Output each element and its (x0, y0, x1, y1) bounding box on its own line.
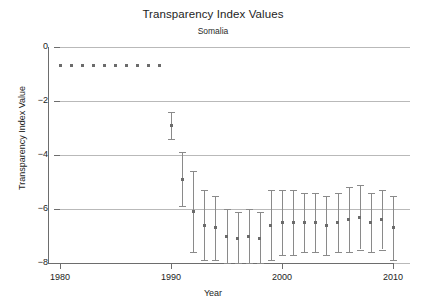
data-point (258, 237, 261, 240)
gridline (60, 47, 410, 48)
data-point (92, 64, 95, 67)
data-point (292, 221, 295, 224)
error-bar-cap (379, 190, 386, 191)
x-tick (282, 263, 283, 269)
y-tick (54, 209, 60, 210)
gridline (60, 155, 410, 156)
y-tick (54, 47, 60, 48)
data-point (336, 221, 339, 224)
x-tick-label: 2000 (262, 272, 302, 282)
error-bar-cap (279, 190, 286, 191)
error-bar-cap (279, 255, 286, 256)
error-bar-cap (224, 263, 231, 264)
error-bar-cap (323, 196, 330, 197)
data-point (125, 64, 128, 67)
error-bar-cap (168, 139, 175, 140)
chart-figure: Transparency Index Values Somalia 0−2−4−… (0, 0, 426, 306)
error-bar-cap (257, 263, 264, 264)
error-bar-cap (179, 152, 186, 153)
data-point (358, 216, 361, 219)
data-point (236, 237, 239, 240)
data-point (214, 226, 217, 229)
data-point (158, 64, 161, 67)
error-bar-cap (301, 193, 308, 194)
data-point (181, 178, 184, 181)
error-bar-cap (246, 263, 253, 264)
chart-subtitle: Somalia (0, 26, 426, 36)
data-point (192, 210, 195, 213)
data-point (147, 64, 150, 67)
data-point (70, 64, 73, 67)
error-bar-cap (235, 263, 242, 264)
error-bar-cap (312, 252, 319, 253)
y-tick-label: −8 (20, 257, 48, 267)
data-point (81, 64, 84, 67)
data-point (203, 224, 206, 227)
chart-title: Transparency Index Values (0, 8, 426, 20)
data-point (380, 218, 383, 221)
gridline (60, 209, 410, 210)
data-point (136, 64, 139, 67)
data-point (59, 64, 62, 67)
error-bar-cap (346, 252, 353, 253)
x-tick-label: 1980 (40, 272, 80, 282)
data-point (103, 64, 106, 67)
data-point (314, 221, 317, 224)
x-tick (171, 263, 172, 269)
data-point (225, 235, 228, 238)
x-tick-label: 1990 (151, 272, 191, 282)
error-bar-cap (290, 190, 297, 191)
error-bar-cap (368, 193, 375, 194)
error-bar-cap (190, 171, 197, 172)
error-bar-cap (357, 250, 364, 251)
data-point (114, 64, 117, 67)
data-point (170, 124, 173, 127)
y-tick (54, 155, 60, 156)
x-axis-title: Year (0, 288, 426, 298)
y-tick (54, 101, 60, 102)
y-axis-line (48, 47, 49, 264)
error-bar-cap (390, 196, 397, 197)
x-tick-label: 2010 (373, 272, 413, 282)
data-point (269, 224, 272, 227)
data-point (369, 221, 372, 224)
x-tick (393, 263, 394, 269)
error-bar-cap (323, 255, 330, 256)
error-bar-cap (268, 190, 275, 191)
error-bar-cap (290, 255, 297, 256)
error-bar-cap (212, 260, 219, 261)
data-point (247, 235, 250, 238)
gridline (60, 101, 410, 102)
x-axis-line (48, 263, 393, 264)
error-bar-cap (168, 112, 175, 113)
error-bar-cap (268, 260, 275, 261)
error-bar-cap (335, 252, 342, 253)
error-bar-cap (368, 252, 375, 253)
x-tick (60, 263, 61, 269)
error-bar-cap (246, 209, 253, 210)
error-bar-cap (201, 190, 208, 191)
error-bar-cap (257, 212, 264, 213)
error-bar-cap (179, 206, 186, 207)
error-bar-cap (312, 193, 319, 194)
error-bar-cap (357, 185, 364, 186)
error-bar-cap (390, 260, 397, 261)
error-bar-cap (224, 209, 231, 210)
error-bar-cap (235, 212, 242, 213)
data-point (303, 221, 306, 224)
error-bar-cap (379, 250, 386, 251)
data-point (347, 218, 350, 221)
error-bar-cap (212, 196, 219, 197)
error-bar-cap (301, 252, 308, 253)
data-point (325, 224, 328, 227)
error-bar-cap (335, 193, 342, 194)
data-point (281, 221, 284, 224)
error-bar-cap (201, 260, 208, 261)
error-bar-cap (346, 187, 353, 188)
error-bar-cap (190, 252, 197, 253)
y-axis-title: Transparency Index Value (17, 38, 27, 238)
data-point (392, 226, 395, 229)
